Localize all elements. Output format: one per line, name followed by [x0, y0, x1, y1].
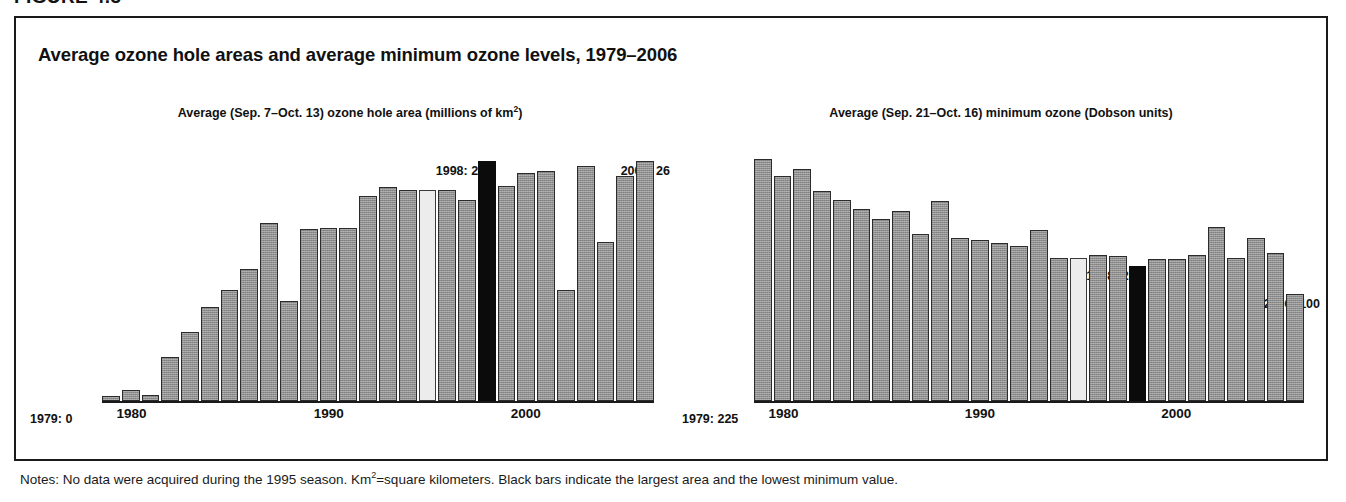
chart-subtitle-left-tail: ) [518, 106, 522, 120]
chart-panel-minimum-ozone: Average (Sep. 21–Oct. 16) minimum ozone … [682, 104, 1320, 449]
plot-area-right: 1979: 225 1998: 26 2006: 100 [682, 136, 1320, 401]
bar-1998 [1129, 266, 1147, 401]
axis-baseline-right [754, 401, 1304, 403]
bar-2001 [1188, 255, 1206, 401]
bar-1990 [320, 228, 338, 401]
bar-1992 [359, 196, 377, 401]
bar-2000 [517, 173, 535, 402]
annotation-first-year-right: 1979: 225 [682, 412, 738, 426]
bar-1993 [379, 187, 397, 401]
bar-1981 [793, 169, 811, 401]
bar-series-left [102, 143, 654, 401]
chart-panel-ozone-hole-area: Average (Sep. 7–Oct. 13) ozone hole area… [30, 104, 670, 449]
bar-1987 [912, 234, 930, 401]
bar-1984 [201, 307, 219, 401]
bar-1988 [280, 301, 298, 401]
chart-subtitle-left: Average (Sep. 7–Oct. 13) ozone hole area… [30, 104, 670, 120]
figure-notes-part1: Notes: No data were acquired during the … [20, 472, 371, 487]
bar-2005 [616, 176, 634, 401]
bar-2003 [577, 166, 595, 401]
bar-1996 [438, 190, 456, 401]
bar-2005 [1267, 253, 1285, 401]
chart-subtitle-left-main: Average (Sep. 7–Oct. 13) ozone hole area… [178, 106, 514, 120]
bar-1982 [813, 191, 831, 401]
figure-notes: Notes: No data were acquired during the … [20, 470, 898, 487]
bar-1993 [1030, 230, 1048, 401]
figure-title: Average ozone hole areas and average min… [38, 44, 677, 66]
bar-1989 [300, 229, 318, 401]
bar-1985 [221, 290, 239, 401]
x-axis-tick-1980: 1980 [768, 406, 798, 421]
bar-1979 [754, 159, 772, 401]
bar-1999 [498, 186, 516, 401]
bar-1984 [853, 209, 871, 401]
plot-area-left: 1979: 0 1998: 26 2006: 26 [30, 136, 670, 401]
bar-2002 [1208, 227, 1226, 401]
bar-1983 [833, 200, 851, 401]
bar-2001 [537, 171, 555, 401]
bar-2002 [557, 290, 575, 401]
bar-1986 [892, 211, 910, 401]
bar-1992 [1010, 246, 1028, 401]
bar-1995 [1070, 258, 1088, 401]
bar-1999 [1148, 259, 1166, 401]
x-axis-tick-1990: 1990 [965, 406, 995, 421]
chart-subtitle-right-main: Average (Sep. 21–Oct. 16) minimum ozone … [829, 106, 1172, 120]
bar-1997 [458, 200, 476, 401]
figure-number-label: FIGURE 4.3 [14, 0, 121, 8]
annotation-first-year-left: 1979: 0 [30, 412, 72, 426]
bar-1987 [260, 223, 278, 401]
bar-1986 [240, 269, 258, 401]
bar-1982 [161, 357, 179, 401]
bar-1991 [339, 228, 357, 401]
x-axis-tick-1990: 1990 [314, 406, 344, 421]
bar-1983 [181, 332, 199, 401]
bar-1996 [1089, 255, 1107, 401]
bar-2004 [1247, 238, 1265, 401]
x-axis-right: 198019902000 [754, 404, 1304, 428]
bar-1990 [971, 240, 989, 401]
figure-frame: Average ozone hole areas and average min… [14, 16, 1328, 461]
bar-1997 [1109, 256, 1127, 401]
bar-1994 [399, 190, 417, 401]
bar-series-right [754, 143, 1304, 401]
bar-1989 [951, 238, 969, 401]
bar-2000 [1168, 259, 1186, 401]
x-axis-tick-2000: 2000 [1161, 406, 1191, 421]
bar-2004 [597, 242, 615, 401]
bar-1994 [1050, 258, 1068, 401]
figure-notes-part2: =square kilometers. Black bars indicate … [376, 472, 898, 487]
bar-1991 [991, 243, 1009, 401]
bar-1988 [931, 201, 949, 401]
bar-1980 [774, 176, 792, 401]
bar-1998 [478, 161, 496, 401]
axis-baseline-left [102, 401, 654, 403]
x-axis-tick-2000: 2000 [511, 406, 541, 421]
bar-2006 [636, 161, 654, 401]
bar-1995 [419, 190, 437, 401]
chart-subtitle-right: Average (Sep. 21–Oct. 16) minimum ozone … [682, 104, 1320, 120]
bar-2006 [1286, 294, 1304, 402]
bar-2003 [1227, 258, 1245, 401]
bar-1980 [122, 390, 140, 401]
x-axis-tick-1980: 1980 [117, 406, 147, 421]
bar-1985 [872, 219, 890, 401]
x-axis-left: 198019902000 [102, 404, 654, 428]
